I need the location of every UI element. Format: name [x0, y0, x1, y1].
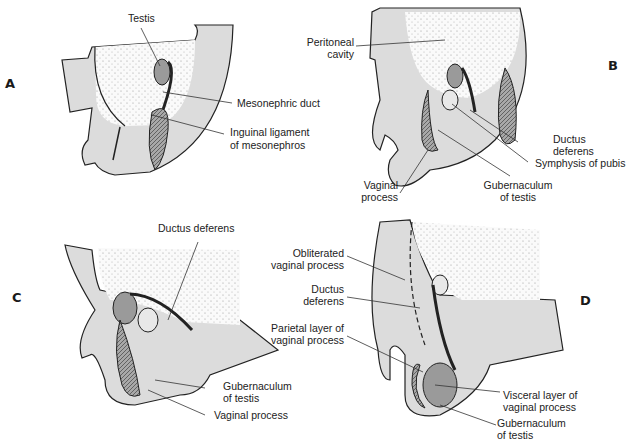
label-gubernaculum-c-2: of testis	[223, 392, 259, 404]
label-gubernaculum-b-2: of testis	[478, 191, 558, 203]
label-vaginal-process-c: Vaginal process	[214, 409, 288, 421]
label-symphysis-pubis: Symphysis of pubis	[535, 157, 625, 169]
label-ductus-deferens-d: Ductus	[260, 283, 344, 295]
label-inguinal-ligament: Inguinal ligament	[230, 126, 309, 138]
panel-a-drawing	[62, 25, 233, 175]
panel-b-drawing	[370, 8, 526, 186]
label-parietal-layer: Parietal layer of	[250, 322, 344, 334]
label-ductus-deferens-b: Ductus	[553, 133, 586, 145]
label-visceral-layer: Visceral layer of	[503, 389, 578, 401]
label-vaginal-process-b: Vaginal	[340, 179, 398, 191]
label-ductus-deferens-c: Ductus deferens	[158, 222, 234, 234]
panel-d-drawing	[372, 220, 563, 416]
label-peritoneal-cavity: Peritoneal	[296, 36, 354, 48]
panel-letter-a: A	[5, 76, 15, 91]
label-gubernaculum-d: Gubernaculum	[497, 417, 566, 429]
label-visceral-layer-2: vaginal process	[503, 401, 576, 413]
label-inguinal-ligament-2: of mesonephros	[230, 139, 305, 151]
label-obliterated-vaginal-process: Obliterated	[260, 247, 344, 259]
label-obliterated-vaginal-process-2: vaginal process	[260, 259, 344, 271]
label-gubernaculum-c: Gubernaculum	[223, 380, 292, 392]
panel-letter-b: B	[608, 58, 618, 73]
label-ductus-deferens-d-2: deferens	[260, 295, 344, 307]
panel-letter-c: C	[12, 290, 22, 305]
label-ductus-deferens-b-2: deferens	[553, 145, 594, 157]
label-gubernaculum-b: Gubernaculum	[478, 179, 558, 191]
label-testis: Testis	[128, 12, 155, 24]
label-gubernaculum-d-2: of testis	[497, 429, 533, 441]
panel-letter-d: D	[580, 293, 591, 308]
label-parietal-layer-2: vaginal process	[250, 334, 344, 346]
label-vaginal-process-b-2: process	[340, 191, 398, 203]
diagram-artwork	[0, 0, 631, 443]
label-mesonephric-duct: Mesonephric duct	[237, 97, 320, 109]
label-peritoneal-cavity-2: cavity	[296, 48, 354, 60]
